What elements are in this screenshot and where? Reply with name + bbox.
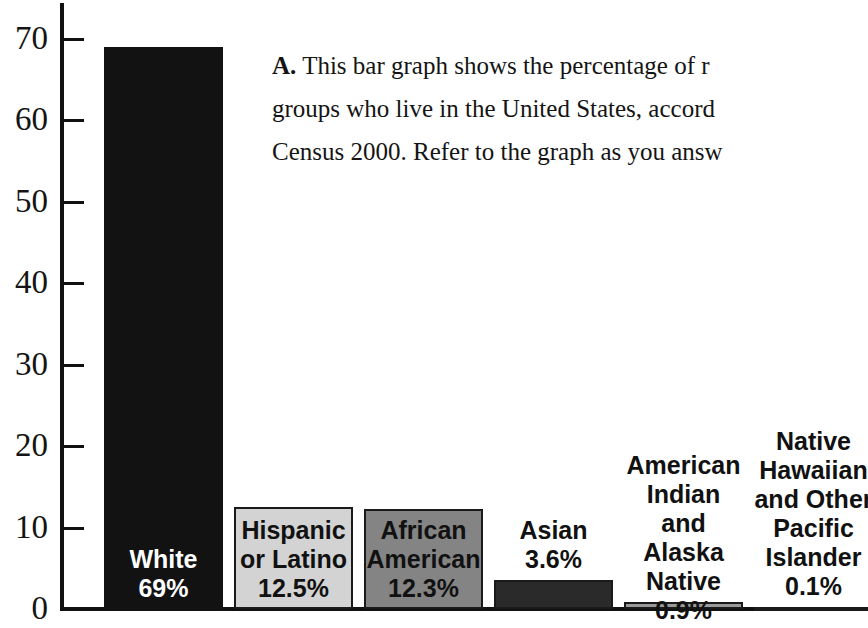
bar-label-line: Hispanic xyxy=(234,516,353,545)
bar-fill xyxy=(104,47,223,609)
bar-label-line: Native xyxy=(624,567,743,596)
bar-fill xyxy=(494,580,613,609)
bar-fill xyxy=(754,607,868,611)
bar-label-line: or Latino xyxy=(234,545,353,574)
bar-label: Hispanicor Latino12.5% xyxy=(234,516,353,603)
bar-label-line: African xyxy=(364,516,483,545)
bar-label-line: 69% xyxy=(104,574,223,603)
bar-label-line: 0.1% xyxy=(754,572,868,601)
bar-native-hawaiian-and-other-pacific-islander[interactable] xyxy=(754,607,868,609)
bar-label: Asian3.6% xyxy=(494,516,613,574)
plot-area: White69%Hispanicor Latino12.5%AfricanAme… xyxy=(0,0,868,628)
bar-label: AfricanAmerican12.3% xyxy=(364,516,483,603)
bar-white[interactable] xyxy=(104,47,223,609)
bar-chart-figure: A. This bar graph shows the percentage o… xyxy=(0,0,868,628)
bar-label-line: 3.6% xyxy=(494,545,613,574)
bar-label-line: Alaska xyxy=(624,538,743,567)
bar-label-line: American xyxy=(624,451,743,480)
bar-label-line: Indian and xyxy=(624,480,743,538)
bar-label-line: American xyxy=(364,545,483,574)
bar-label-line: White xyxy=(104,545,223,574)
bar-asian[interactable] xyxy=(494,580,613,609)
bar-label: AmericanIndian andAlaskaNative0.9% xyxy=(624,451,743,625)
bar-label-line: Islander xyxy=(754,543,868,572)
bar-label-line: 0.9% xyxy=(624,596,743,625)
bar-label-line: and Other xyxy=(754,485,868,514)
bar-label-line: Native xyxy=(754,427,868,456)
bar-label-line: 12.5% xyxy=(234,574,353,603)
bar-label-line: 12.3% xyxy=(364,574,483,603)
bar-label-line: Pacific xyxy=(754,514,868,543)
bar-label-line: Hawaiian xyxy=(754,456,868,485)
bar-label: NativeHawaiianand OtherPacificIslander0.… xyxy=(754,427,868,601)
bar-label: White69% xyxy=(104,545,223,603)
bar-label-line: Asian xyxy=(494,516,613,545)
